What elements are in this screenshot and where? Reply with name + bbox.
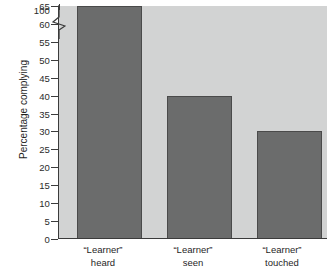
category-label-line1: “Learner” bbox=[262, 244, 301, 255]
category-label-line2: touched bbox=[237, 256, 327, 269]
y-axis-tick bbox=[51, 239, 58, 240]
y-axis-tick-label: 40 bbox=[39, 91, 50, 102]
category-label-line2: heard bbox=[58, 256, 148, 269]
y-axis-tick-label: 5 bbox=[45, 216, 50, 227]
category-label-line1: “Learner” bbox=[83, 244, 122, 255]
y-axis-tick-label: 20 bbox=[39, 162, 50, 173]
y-axis-top-label: 100 bbox=[34, 5, 50, 16]
y-axis-tick-label: 60 bbox=[39, 19, 50, 30]
x-axis-category-label: “Learner”seen bbox=[148, 243, 238, 269]
x-axis-category-label: “Learner”touched bbox=[237, 243, 327, 269]
bar bbox=[257, 131, 322, 239]
bar-chart-figure: 05101520253035404550556065100 Percentage… bbox=[0, 0, 327, 278]
y-axis-tick-label: 35 bbox=[39, 109, 50, 120]
y-axis-tick bbox=[51, 149, 58, 150]
category-label-line2: seen bbox=[148, 256, 238, 269]
category-label-line1: “Learner” bbox=[173, 244, 212, 255]
y-axis-tick-label: 0 bbox=[45, 234, 50, 245]
y-axis-tick bbox=[51, 60, 58, 61]
y-axis-tick-label: 45 bbox=[39, 73, 50, 84]
y-axis-title: Percentage complying bbox=[18, 25, 29, 195]
y-axis-tick-label: 55 bbox=[39, 37, 50, 48]
y-axis-tick bbox=[51, 96, 58, 97]
y-axis-tick bbox=[51, 221, 58, 222]
bar bbox=[167, 96, 232, 239]
axis-break-icon bbox=[52, 5, 66, 39]
y-axis-tick bbox=[51, 203, 58, 204]
y-axis-tick-label: 25 bbox=[39, 144, 50, 155]
y-axis-tick bbox=[51, 185, 58, 186]
y-axis-tick-label: 30 bbox=[39, 126, 50, 137]
y-axis-tick bbox=[51, 131, 58, 132]
plot-area bbox=[58, 6, 327, 239]
y-axis-tick bbox=[51, 78, 58, 79]
y-axis-tick bbox=[51, 42, 58, 43]
x-axis-category-label: “Learner”heard bbox=[58, 243, 148, 269]
y-axis-tick-label: 10 bbox=[39, 198, 50, 209]
bar bbox=[77, 6, 142, 239]
y-axis-tick-label: 50 bbox=[39, 55, 50, 66]
x-axis-category-labels: “Learner”heard“Learner”seen“Learner”touc… bbox=[58, 243, 327, 278]
y-axis-tick bbox=[51, 114, 58, 115]
bars-container bbox=[58, 6, 327, 239]
y-axis-line bbox=[58, 6, 59, 239]
y-axis-tick bbox=[51, 167, 58, 168]
x-axis-line bbox=[58, 238, 327, 239]
y-axis-tick-label: 15 bbox=[39, 180, 50, 191]
